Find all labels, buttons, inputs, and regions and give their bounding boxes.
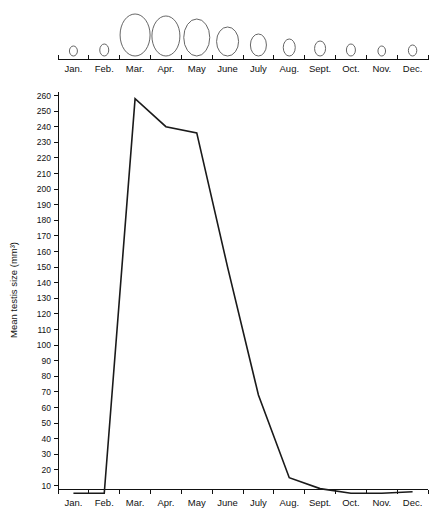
- top-month-label-sept: Sept.: [309, 63, 331, 74]
- y-axis-tick-label-260: 260: [37, 91, 51, 101]
- gonad-outline-apr: [152, 16, 180, 56]
- y-axis-ticks: [54, 96, 59, 486]
- bottom-axis-month-labels: Jan.Feb.Mar.Apr.MayJuneJulyAug.Sept.Oct.…: [64, 497, 422, 508]
- y-axis-tick-label-60: 60: [42, 403, 52, 413]
- bottom-month-label-apr: Apr.: [157, 497, 174, 508]
- bottom-month-label-may: May: [188, 497, 206, 508]
- gonad-outline-june: [217, 27, 239, 56]
- y-axis-tick-label-40: 40: [42, 434, 52, 444]
- gonad-outline-sept: [315, 41, 326, 56]
- top-axis-ticks: [58, 55, 428, 60]
- y-axis-tick-label-140: 140: [37, 278, 51, 288]
- y-axis-tick-label-200: 200: [37, 184, 51, 194]
- testis-size-seasonal-chart: Jan.Feb.Mar.Apr.MayJuneJulyAug.Sept.Oct.…: [0, 0, 436, 523]
- gonad-outline-mar: [120, 14, 150, 56]
- gonad-outline-nov: [378, 46, 386, 56]
- y-axis-tick-label-220: 220: [37, 153, 51, 163]
- bottom-month-label-nov: Nov.: [372, 497, 391, 508]
- y-axis-tick-label-230: 230: [37, 137, 51, 147]
- y-axis-tick-label-180: 180: [37, 215, 51, 225]
- bottom-month-label-june: June: [217, 497, 238, 508]
- chart-figure: Jan.Feb.Mar.Apr.MayJuneJulyAug.Sept.Oct.…: [0, 0, 436, 523]
- top-month-label-may: May: [188, 63, 206, 74]
- gonad-outline-row: [69, 14, 416, 56]
- y-axis-tick-labels: 2602502402302202102001901801701601501401…: [37, 91, 51, 491]
- bottom-month-label-sept: Sept.: [309, 497, 331, 508]
- bottom-month-label-aug: Aug.: [280, 497, 300, 508]
- testis-size-line: [73, 99, 412, 494]
- top-month-label-jan: Jan.: [64, 63, 82, 74]
- y-axis-tick-label-130: 130: [37, 293, 51, 303]
- top-month-label-apr: Apr.: [157, 63, 174, 74]
- y-axis-tick-label-80: 80: [42, 371, 52, 381]
- gonad-outline-oct: [346, 44, 355, 56]
- y-axis-tick-label-90: 90: [42, 356, 52, 366]
- y-axis-tick-label-30: 30: [42, 449, 52, 459]
- y-axis-tick-label-50: 50: [42, 418, 52, 428]
- y-axis-tick-label-250: 250: [37, 106, 51, 116]
- y-axis-tick-label-100: 100: [37, 340, 51, 350]
- y-axis-tick-label-160: 160: [37, 247, 51, 257]
- top-month-label-nov: Nov.: [372, 63, 391, 74]
- top-month-label-june: June: [217, 63, 238, 74]
- bottom-month-label-feb: Feb.: [95, 497, 114, 508]
- y-axis-tick-label-70: 70: [42, 387, 52, 397]
- bottom-month-label-oct: Oct.: [342, 497, 359, 508]
- bottom-month-label-mar: Mar.: [126, 497, 144, 508]
- top-month-label-july: July: [250, 63, 267, 74]
- y-axis-title: Mean testis size (mm³): [8, 242, 19, 338]
- top-axis-month-labels: Jan.Feb.Mar.Apr.MayJuneJulyAug.Sept.Oct.…: [64, 63, 422, 74]
- bottom-month-label-july: July: [250, 497, 267, 508]
- y-axis-tick-label-20: 20: [42, 465, 52, 475]
- y-axis-tick-label-210: 210: [37, 169, 51, 179]
- gonad-outline-aug: [283, 39, 295, 56]
- gonad-outline-jan: [69, 46, 77, 56]
- y-axis-tick-label-110: 110: [37, 325, 51, 335]
- gonad-outline-july: [250, 34, 266, 56]
- top-month-label-oct: Oct.: [342, 63, 359, 74]
- top-month-label-mar: Mar.: [126, 63, 144, 74]
- bottom-month-label-jan: Jan.: [64, 497, 82, 508]
- gonad-outline-dec: [408, 45, 416, 56]
- y-axis-tick-label-10: 10: [42, 481, 52, 491]
- gonad-outline-may: [184, 19, 210, 56]
- y-axis-tick-label-150: 150: [37, 262, 51, 272]
- y-axis-tick-label-190: 190: [37, 200, 51, 210]
- top-month-label-dec: Dec.: [403, 63, 423, 74]
- top-month-label-aug: Aug.: [280, 63, 300, 74]
- top-month-label-feb: Feb.: [95, 63, 114, 74]
- bottom-month-label-dec: Dec.: [403, 497, 423, 508]
- gonad-outline-feb: [100, 44, 109, 56]
- y-axis-tick-label-240: 240: [37, 122, 51, 132]
- y-axis-tick-label-170: 170: [37, 231, 51, 241]
- y-axis-tick-label-120: 120: [37, 309, 51, 319]
